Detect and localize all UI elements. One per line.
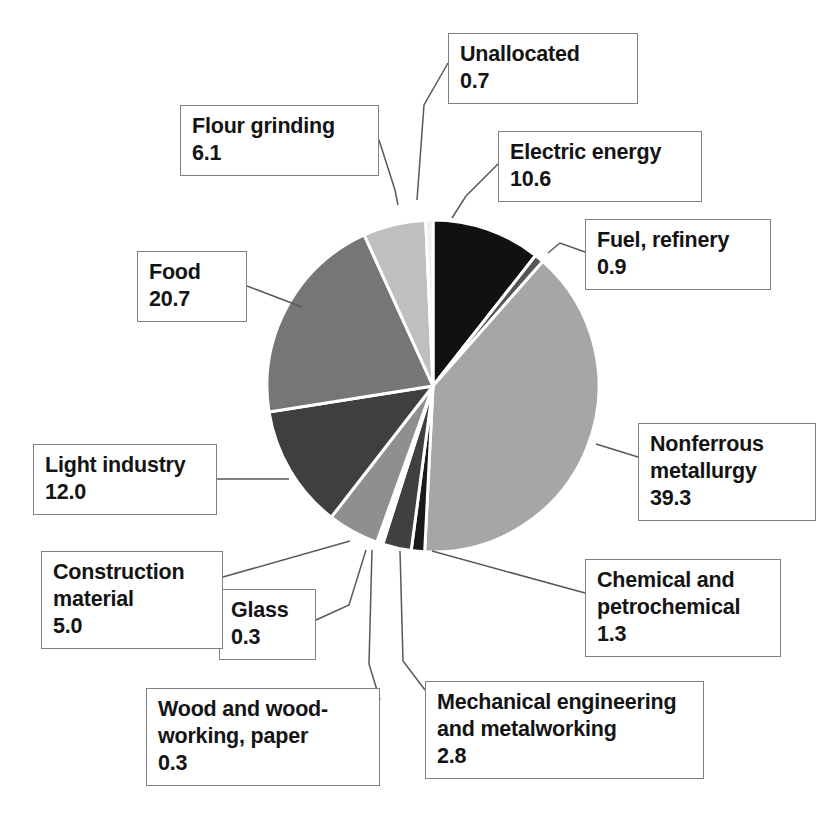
callout-unallocated[interactable]: Unallocated0.7 [448,33,638,104]
callout-construction-caption: Construction material [53,559,213,613]
callout-electric-energy[interactable]: Electric energy10.6 [498,131,702,202]
callout-electric-energy-value: 10.6 [510,166,692,193]
callout-fuel-refinery-value: 0.9 [597,254,761,281]
callout-wood-caption: Wood and wood- working, paper [158,696,370,750]
callout-glass[interactable]: Glass0.3 [219,589,316,660]
callout-glass-value: 0.3 [231,624,306,651]
callout-flour-grinding-value: 6.1 [192,140,369,167]
callout-construction[interactable]: Construction material5.0 [41,551,223,649]
callout-nonferrous[interactable]: Nonferrous metallurgy39.3 [638,423,816,521]
callout-nonferrous-caption: Nonferrous metallurgy [650,431,806,485]
callout-light-industry-caption: Light industry [45,452,207,479]
callout-chemical-caption: Chemical and petrochemical [597,567,771,621]
callout-chemical[interactable]: Chemical and petrochemical1.3 [585,559,781,657]
callout-food[interactable]: Food20.7 [137,251,247,322]
callout-mechanical-caption: Mechanical engineering and metalworking [437,689,694,743]
pie-slices-group [267,220,599,552]
callout-chemical-value: 1.3 [597,621,771,648]
callout-nonferrous-value: 39.3 [650,485,806,512]
callout-mechanical-value: 2.8 [437,743,694,770]
callout-construction-value: 5.0 [53,613,213,640]
callout-food-value: 20.7 [149,286,237,313]
callout-light-industry[interactable]: Light industry12.0 [33,444,217,515]
callout-glass-caption: Glass [231,597,306,624]
callout-unallocated-caption: Unallocated [460,41,628,68]
callout-fuel-refinery-caption: Fuel, refinery [597,227,761,254]
callout-flour-grinding-caption: Flour grinding [192,113,369,140]
callout-unallocated-value: 0.7 [460,68,628,95]
callout-electric-energy-caption: Electric energy [510,139,692,166]
callout-flour-grinding[interactable]: Flour grinding6.1 [180,105,379,176]
callout-light-industry-value: 12.0 [45,479,207,506]
pie-chart-figure: Unallocated0.7Electric energy10.6Fuel, r… [0,0,820,819]
callout-fuel-refinery[interactable]: Fuel, refinery0.9 [585,219,771,290]
callout-wood-value: 0.3 [158,750,370,777]
callout-food-caption: Food [149,259,237,286]
callout-mechanical[interactable]: Mechanical engineering and metalworking2… [425,681,704,779]
callout-wood[interactable]: Wood and wood- working, paper0.3 [146,688,380,786]
